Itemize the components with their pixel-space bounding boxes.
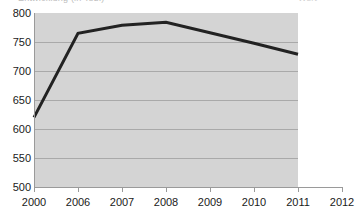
x-tick-label-2006: 2006 [66, 196, 90, 208]
x-tick-label-2012: 2012 [330, 196, 354, 208]
x-tick-label-2007: 2007 [110, 196, 134, 208]
x-tick-label-2010: 2010 [242, 196, 266, 208]
x-tick-label-2009: 2009 [198, 196, 222, 208]
x-axis-tick-labels: 2000 2006 2007 2008 2009 2010 2011 2012 [0, 0, 359, 217]
x-tick-label-2000: 2000 [22, 196, 46, 208]
x-tick-label-2011: 2011 [286, 196, 310, 208]
line-chart: Entwicklung (in Tsd.) Wert 800 [0, 0, 359, 217]
x-tick-label-2008: 2008 [154, 196, 178, 208]
